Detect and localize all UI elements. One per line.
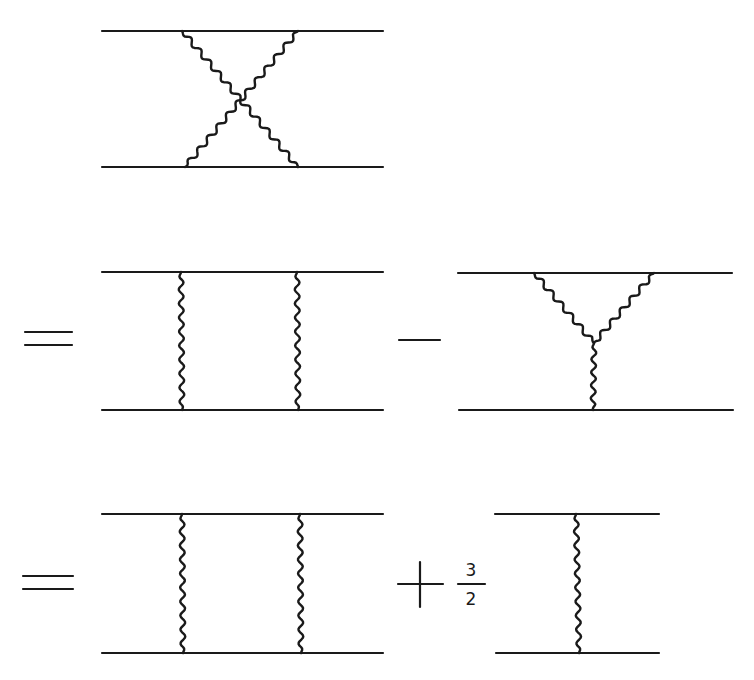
equals-sign-2 (23, 576, 73, 589)
fraction-denominator: 2 (466, 589, 477, 609)
box-diagram-1 (102, 272, 383, 410)
feynman-diagram-figure: 3 2 (0, 0, 754, 680)
equals-sign-1 (25, 332, 72, 345)
boson-line-left (180, 514, 186, 653)
fraction-coefficient: 3 2 (458, 560, 485, 609)
boson-line-left-leg (534, 273, 594, 343)
boson-line (574, 514, 581, 653)
plus-sign (398, 562, 443, 607)
boson-line-left (179, 272, 184, 410)
boson-line-vertical (591, 343, 596, 410)
boson-line-right (298, 514, 304, 653)
box-diagram-2 (102, 514, 383, 653)
fraction-numerator: 3 (466, 560, 477, 580)
triple-vertex-diagram (458, 273, 733, 410)
single-exchange-diagram (495, 514, 659, 653)
boson-line-right-leg (594, 273, 654, 343)
boson-line-right (295, 272, 300, 410)
crossed-box-diagram (102, 31, 383, 167)
